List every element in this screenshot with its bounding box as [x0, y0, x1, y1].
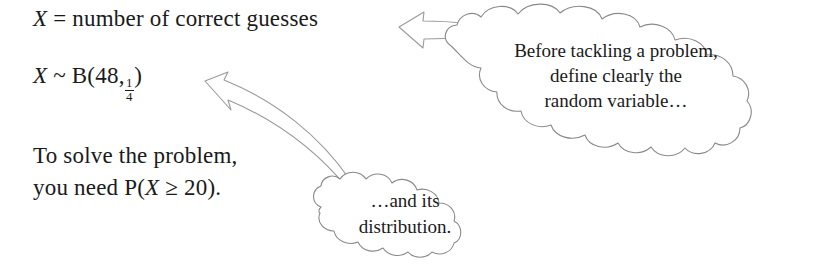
variable-symbol-x: X [33, 6, 47, 31]
statement-variable-definition: X = number of correct guesses [33, 6, 318, 32]
variable-symbol-x: X [33, 63, 47, 88]
definition-description: number of correct guesses [72, 6, 318, 31]
bottom-cloud-text: …and its distribution. [325, 188, 485, 240]
figure-canvas: X = number of correct guesses X ~ B(48,1… [0, 0, 830, 267]
fraction-denominator: 4 [125, 90, 134, 104]
solve-line-1: To solve the problem, [33, 140, 333, 172]
solve-line-2: you need P(X ≥ 20). [33, 172, 333, 204]
probability-suffix: ). [207, 175, 221, 200]
operator-greater-equal: ≥ [165, 175, 178, 200]
relation-equals: = [53, 6, 66, 31]
distribution-family: B [72, 63, 88, 88]
relation-tilde: ~ [53, 63, 66, 88]
fraction-numerator: 1 [125, 77, 134, 90]
statement-distribution: X ~ B(48,14) [33, 63, 142, 104]
statement-solve-instruction: To solve the problem, you need P(X ≥ 20)… [33, 140, 333, 204]
comma: , [119, 63, 125, 88]
top-cloud-line-1: Before tackling a problem, [487, 38, 745, 63]
top-cloud-text: Before tackling a problem, define clearl… [487, 38, 745, 113]
top-cloud-line-2: define clearly the [487, 63, 745, 88]
parameter-p-fraction: 14 [125, 77, 134, 104]
top-cloud-line-3: random variable… [487, 88, 745, 113]
bottom-cloud-line-1: …and its [325, 188, 485, 214]
parameter-n: 48 [95, 63, 118, 88]
probability-prefix: you need P( [33, 175, 145, 200]
close-paren: ) [134, 63, 142, 88]
threshold-value: 20 [184, 175, 207, 200]
bottom-cloud-line-2: distribution. [325, 214, 485, 240]
variable-symbol-x: X [145, 175, 159, 200]
